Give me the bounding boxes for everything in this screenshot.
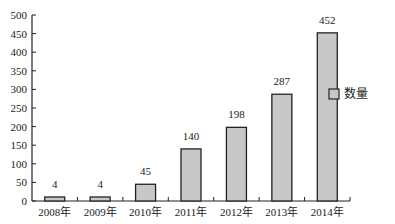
bar bbox=[45, 197, 65, 201]
y-tick-label: 50 bbox=[16, 176, 28, 188]
bar-value-label: 4 bbox=[52, 178, 58, 190]
x-tick-label: 2014年 bbox=[311, 205, 344, 218]
x-tick-label: 2008年 bbox=[38, 205, 71, 218]
bar-value-label: 4 bbox=[97, 178, 103, 190]
bar bbox=[90, 197, 110, 201]
x-tick-label: 2011年 bbox=[175, 205, 208, 218]
bar bbox=[181, 149, 201, 201]
y-tick-label: 400 bbox=[11, 46, 28, 58]
y-tick-label: 150 bbox=[11, 139, 28, 151]
bar bbox=[317, 33, 337, 201]
bar-value-label: 140 bbox=[183, 130, 200, 142]
x-tick-label: 2012年 bbox=[220, 205, 253, 218]
y-tick-label: 250 bbox=[11, 102, 28, 114]
bar-value-label: 452 bbox=[319, 14, 336, 26]
bar bbox=[272, 94, 292, 201]
x-tick-label: 2009年 bbox=[84, 205, 117, 218]
y-tick-label: 500 bbox=[11, 9, 28, 21]
bar-value-label: 198 bbox=[228, 108, 245, 120]
y-tick-label: 0 bbox=[22, 195, 28, 207]
y-tick-label: 100 bbox=[11, 158, 28, 170]
bar-value-label: 287 bbox=[274, 75, 291, 87]
y-tick-label: 300 bbox=[11, 83, 28, 95]
bar-value-label: 45 bbox=[140, 165, 152, 177]
legend-swatch bbox=[329, 89, 339, 99]
legend-label: 数量 bbox=[344, 86, 368, 101]
y-axis: 050100150200250300350400450500 bbox=[11, 9, 37, 207]
y-tick-label: 450 bbox=[11, 28, 28, 40]
bar bbox=[136, 184, 156, 201]
y-tick-label: 350 bbox=[11, 65, 28, 77]
bar-series: 4445140198287452 bbox=[45, 14, 338, 201]
bar-chart: 050100150200250300350400450500 2008年2009… bbox=[0, 0, 395, 224]
x-tick-label: 2013年 bbox=[265, 205, 298, 218]
y-tick-label: 200 bbox=[11, 121, 28, 133]
bar bbox=[226, 127, 246, 201]
x-tick-label: 2010年 bbox=[129, 205, 162, 218]
